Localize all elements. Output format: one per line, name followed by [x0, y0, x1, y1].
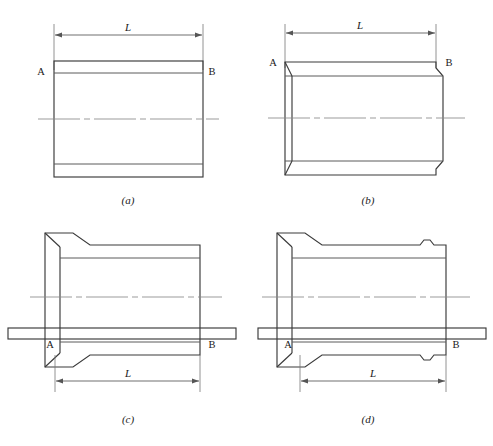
panel-d-label-b: B [452, 339, 459, 350]
panel-c-caption: (c) [122, 413, 135, 426]
panel-c-flange-chamfer-top [45, 233, 60, 247]
panel-c-dimension-label: L [124, 367, 131, 379]
panel-b-body-outline [285, 62, 443, 175]
panel-a-dimension-label: L [124, 21, 131, 33]
panel-d-body-outline [277, 233, 446, 367]
panel-a-label-b: B [208, 66, 215, 77]
panel-a-label-a: A [37, 66, 45, 77]
panel-d-flange-chamfer-top [277, 233, 292, 247]
panel-b-label-b: B [445, 57, 452, 68]
panel-b: A B L (b) [268, 19, 465, 207]
panel-c-arrow-right [192, 379, 199, 384]
panel-c-flange-chamfer-bottom [45, 353, 60, 367]
panel-c-body-outline [45, 233, 200, 367]
panel-b-chamfer-top-left [285, 62, 292, 76]
panel-d-arrow-left [301, 379, 308, 384]
engineering-figure: A B L (a) A B L (b) [0, 0, 493, 446]
panel-d-caption: (d) [362, 413, 375, 426]
panel-d-dimension-label: L [369, 367, 376, 379]
panel-a-arrow-left [55, 33, 62, 38]
panel-d-label-a: A [284, 339, 292, 350]
panel-c-label-a: A [46, 339, 54, 350]
panel-a-arrow-right [195, 33, 202, 38]
panel-c: A B L (c) [8, 233, 236, 426]
figure-canvas: A B L (a) A B L (b) [0, 0, 493, 446]
panel-b-chamfer-bottom-left [285, 161, 292, 175]
panel-c-arrow-left [56, 379, 63, 384]
panel-b-arrow-right [428, 31, 435, 36]
panel-b-label-a: A [269, 57, 277, 68]
panel-b-arrow-left [286, 31, 293, 36]
panel-c-mandrel-bar [8, 328, 236, 339]
panel-d-flange-chamfer-bottom [277, 353, 292, 367]
panel-c-label-b: B [208, 339, 215, 350]
panel-b-dimension-label: L [356, 19, 363, 31]
panel-a-caption: (a) [122, 194, 135, 207]
panel-b-caption: (b) [362, 194, 375, 207]
panel-d: A B L (d) [258, 233, 486, 426]
panel-d-arrow-right [438, 379, 445, 384]
panel-a: A B L (a) [37, 21, 219, 207]
